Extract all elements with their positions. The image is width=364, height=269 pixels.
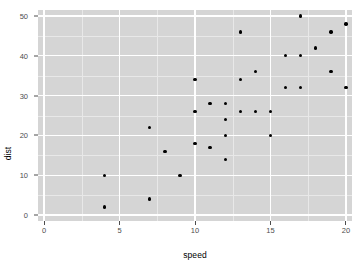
data-point [193,142,196,145]
y-tick-label: 20 [6,131,28,140]
gridline-major-vertical [270,10,271,221]
y-tick-label: 50 [6,11,28,20]
gridline-major-vertical [43,10,44,221]
data-point [284,54,287,57]
data-point [193,78,196,81]
data-point [239,30,242,33]
gridline-major-horizontal [38,95,352,96]
gridline-major-vertical [119,10,120,221]
data-point [299,14,302,17]
data-point [208,146,211,149]
data-point [224,134,227,137]
gridline-major-horizontal [38,175,352,176]
gridline-major-horizontal [38,214,352,215]
x-axis-title: speed [38,250,352,260]
y-tick-label: 10 [6,171,28,180]
data-point [299,54,302,57]
data-point [178,174,181,177]
x-tick-mark [44,221,45,225]
data-point [254,110,257,113]
x-tick-label: 10 [183,226,207,235]
data-point [224,102,227,105]
y-tick-label: 40 [6,51,28,60]
data-point [284,86,287,89]
gridline-major-horizontal [38,55,352,56]
y-tick-label: 0 [6,211,28,220]
x-tick-label: 0 [32,226,56,235]
data-point [193,110,196,113]
gridline-major-horizontal [38,135,352,136]
gridline-major-horizontal [38,15,352,16]
data-point [269,134,272,137]
data-point [148,126,151,129]
x-tick-label: 5 [108,226,132,235]
x-tick-mark [119,221,120,225]
data-point [239,78,242,81]
x-tick-mark [270,221,271,225]
data-point [239,110,242,113]
data-point [208,102,211,105]
x-tick-mark [345,221,346,225]
data-point [224,158,227,161]
data-point [269,110,272,113]
x-tick-label: 20 [334,226,358,235]
y-tick-label: 30 [6,91,28,100]
data-point [224,118,227,121]
gridline-major-vertical [345,10,346,221]
data-point [329,30,332,33]
x-tick-label: 15 [258,226,282,235]
gridline-major-vertical [194,10,195,221]
data-point [344,22,347,25]
data-point [344,86,347,89]
scatter-plot: dist 01020304050 05101520 speed [0,0,364,269]
plot-panel [38,10,352,221]
data-point [103,174,106,177]
data-point [148,197,151,200]
data-point [329,70,332,73]
x-tick-mark [195,221,196,225]
data-point [254,70,257,73]
data-point [163,150,166,153]
y-axis-title-label: dist [3,147,13,161]
data-point [103,205,106,208]
data-point [299,86,302,89]
data-point [314,46,317,49]
